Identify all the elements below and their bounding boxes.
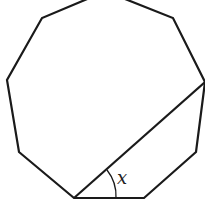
angle-arc <box>107 170 116 198</box>
angle-label-x: x <box>117 167 127 188</box>
nonagon-figure <box>0 0 205 212</box>
diagonal <box>74 82 205 198</box>
nonagon-diagram: x <box>0 0 205 212</box>
